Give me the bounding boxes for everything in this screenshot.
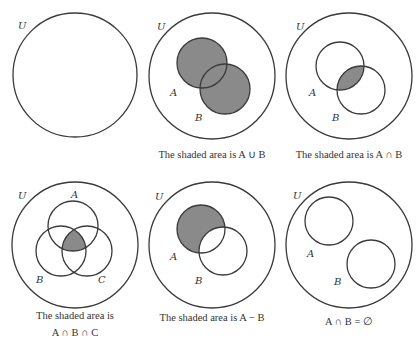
set-a-label: A: [169, 251, 177, 262]
set-b-label: B: [194, 112, 202, 123]
set-b-label: B: [194, 275, 202, 286]
universe-circle: [13, 13, 137, 137]
panel-union: U A B The shaded area is A ∪ B: [149, 13, 275, 160]
caption: The shaded area is A ∩ B: [296, 149, 403, 160]
caption: A ∩ B = ∅: [325, 316, 373, 327]
set-b-label: B: [35, 274, 43, 285]
set-b-label: B: [331, 112, 339, 123]
universe-label: U: [157, 21, 166, 32]
panel-universe-only: U: [13, 13, 137, 137]
set-a-circle: [305, 197, 353, 245]
caption-line-2: A ∩ B ∩ C: [52, 327, 99, 338]
caption: The shaded area is A ∪ B: [158, 149, 265, 160]
caption-line-1: The shaded area is: [36, 310, 114, 321]
caption: The shaded area is A − B: [159, 312, 264, 323]
venn-diagram-grid: U U A B The shaded area is A ∪ B U A B T…: [0, 0, 417, 344]
set-a-label: A: [308, 87, 316, 98]
set-a-label: A: [306, 248, 314, 259]
panel-difference: U A B The shaded area is A − B: [149, 182, 275, 323]
universe-label: U: [18, 190, 27, 201]
universe-label: U: [296, 21, 305, 32]
panel-triple-intersection: U A B C The shaded area is A ∩ B ∩ C: [12, 182, 138, 338]
universe-label: U: [293, 190, 302, 201]
universe-label: U: [18, 20, 27, 31]
set-a-label: A: [169, 87, 177, 98]
set-c-label: C: [98, 274, 106, 285]
universe-label: U: [155, 191, 164, 202]
panel-intersection: U A B The shaded area is A ∩ B: [286, 13, 412, 160]
panel-disjoint: U A B A ∩ B = ∅: [286, 182, 412, 327]
universe-circle: [286, 182, 412, 308]
set-b-circle: [347, 240, 395, 288]
set-b-label: B: [333, 276, 341, 287]
set-a-label: A: [70, 189, 78, 200]
